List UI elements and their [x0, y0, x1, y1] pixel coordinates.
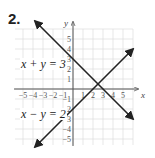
y-tick-label: −4	[62, 125, 71, 134]
x-axis-label: x	[140, 90, 145, 100]
y-tick-label: 5	[67, 35, 71, 44]
x-tick-label: −2	[49, 91, 58, 100]
x-tick-label: 2	[91, 91, 95, 100]
equation-label-1: x + y = 3	[20, 58, 67, 70]
x-tick-label: 5	[121, 91, 125, 100]
y-tick-label: 2	[67, 65, 71, 74]
x-tick-label: −3	[39, 91, 48, 100]
y-axis-label: y	[63, 18, 68, 28]
y-tick-label: −5	[62, 135, 71, 144]
equation-label-2: x − y = 2	[20, 108, 67, 120]
y-tick-label: −1	[62, 95, 71, 104]
coordinate-plot: xy−5−4−3−2−112345−5−4−3−2−112345	[0, 0, 155, 158]
x-tick-label: −4	[29, 91, 38, 100]
y-tick-label: 1	[67, 75, 71, 84]
x-tick-label: 3	[101, 91, 105, 100]
x-tick-label: −5	[19, 91, 28, 100]
